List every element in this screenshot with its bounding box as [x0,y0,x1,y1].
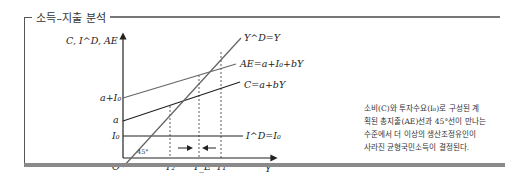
consumption-line-label: C=a+bY [244,79,287,90]
angle-label: 45° [137,148,149,156]
description-line: 획된 총지출(AE)선과 45°선이 만나는 [364,115,504,128]
aggregate-expenditure-line [123,64,236,98]
forty-five-line-label: Y^D=Y [244,32,282,43]
intercept-a: a [113,114,119,125]
investment-line-label: I^D=I₀ [245,130,281,141]
description-line: 수준에서 더 이상의 생산조정유인이 [364,128,504,141]
description-line: 사라진 균형국민소득이 결정된다. [364,141,504,154]
y-axis-label: C, I^D, AE [66,35,118,46]
bottom-separator [24,163,505,167]
description-line: 소비(C)와 투자수요(I₀)로 구성된 계 [364,102,504,115]
ae-line-label: AE=a+I₀+bY [239,58,305,69]
description-text: 소비(C)와 투자수요(I₀)로 구성된 계 획된 총지출(AE)선과 45°선… [364,102,504,154]
intercept-a-plus-i0: a+I₀ [100,92,121,103]
intercept-i0: I₀ [111,130,120,141]
consumption-line [123,82,240,121]
